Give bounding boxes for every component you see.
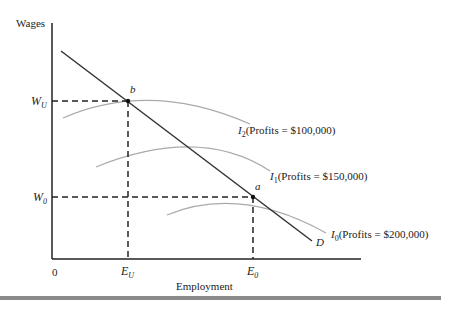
- curve-label-i1: I1(Profits = $150,000): [270, 170, 367, 185]
- demand-label: D: [316, 236, 324, 248]
- point-a-label: a: [255, 180, 261, 192]
- y-axis-label: Wages: [16, 17, 45, 29]
- diagram-canvas: [0, 0, 464, 310]
- bottom-divider-bar: [0, 296, 441, 300]
- isoprofit-curve-i0: [167, 203, 326, 233]
- point-b: [126, 99, 130, 103]
- curve-label-i0: I0(Profits = $200,000): [331, 228, 428, 243]
- x-axis-label: Employment: [176, 280, 233, 292]
- point-a: [251, 195, 255, 199]
- point-b-label: b: [130, 83, 136, 95]
- tick-eu: EU: [121, 264, 134, 280]
- tick-wu: WU: [31, 94, 47, 110]
- origin-label: 0: [52, 266, 58, 278]
- tick-w0: W0: [33, 190, 47, 206]
- tick-e0: E0: [247, 264, 258, 280]
- curve-label-i2: I2(Profits = $100,000): [238, 124, 335, 139]
- isoprofit-curve-i1: [96, 147, 270, 171]
- isoprofit-curve-i2: [63, 100, 250, 124]
- demand-curve: [61, 51, 312, 241]
